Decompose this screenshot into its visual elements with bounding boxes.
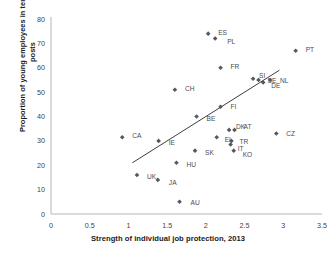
data-point-marker	[218, 65, 223, 70]
data-point-label: UK	[147, 173, 157, 180]
y-tick-label: 50	[37, 88, 45, 97]
data-point-label: KO	[243, 151, 253, 158]
data-point-label: AU	[191, 199, 200, 206]
data-point-marker	[193, 148, 198, 153]
y-tick-label: 30	[37, 136, 45, 145]
data-point-label: CZ	[286, 130, 295, 137]
data-point-marker	[194, 114, 199, 119]
y-tick-label: 80	[37, 15, 45, 24]
data-point-marker	[156, 139, 161, 144]
data-point-label: AT	[244, 123, 252, 130]
data-point-marker	[261, 80, 266, 85]
data-point-marker	[213, 36, 218, 41]
x-tick-label: 2	[204, 221, 208, 230]
x-axis-ticks: 00.511.522.533.5	[49, 221, 327, 230]
y-tick-label: 10	[37, 185, 45, 194]
data-point-marker	[177, 200, 182, 205]
data-point-label: JA	[169, 179, 177, 186]
x-tick-label: 2.5	[240, 221, 250, 230]
x-tick-label: 1	[126, 221, 130, 230]
data-point-marker	[174, 161, 179, 166]
data-point-marker	[214, 135, 219, 140]
x-tick-label: 1.5	[162, 221, 172, 230]
data-point-marker	[120, 135, 125, 140]
x-tick-label: 3.5	[317, 221, 327, 230]
data-point-label: BE	[207, 115, 216, 122]
data-point-label: IE	[169, 139, 176, 146]
y-tick-label: 60	[37, 63, 45, 72]
y-tick-label: 20	[37, 161, 45, 170]
data-point-label: HU	[186, 161, 196, 168]
data-point-label: NL	[280, 77, 289, 84]
x-tick-label: 0	[49, 221, 53, 230]
x-tick-label: 3	[281, 221, 285, 230]
data-point-marker	[173, 87, 178, 92]
data-point-label: PT	[306, 46, 314, 53]
data-point-marker	[231, 148, 236, 153]
data-point-marker	[206, 31, 211, 36]
data-point-marker	[135, 173, 140, 178]
data-point-label: CA	[132, 132, 142, 139]
data-point-marker	[156, 178, 161, 183]
data-point-marker	[227, 128, 232, 133]
scatter-chart: Proportion of young employees in tempora…	[0, 0, 336, 255]
data-points: ESPLPTFRSISEDENLCHFIBEDKATCZCAELIETRITKO…	[120, 29, 314, 206]
y-tick-label: 40	[37, 112, 45, 121]
data-point-label: SK	[205, 149, 214, 156]
data-point-label: FI	[231, 103, 237, 110]
plot-area: 01020304050607080 00.511.522.533.5 ESPLP…	[0, 0, 336, 255]
y-axis-ticks: 01020304050607080	[37, 15, 45, 219]
data-point-marker	[293, 48, 298, 53]
data-point-label: PL	[227, 38, 235, 45]
data-point-label: FR	[231, 63, 240, 70]
data-point-marker	[274, 131, 279, 136]
data-point-marker	[251, 76, 256, 81]
data-point-label: ES	[218, 29, 227, 36]
y-tick-label: 0	[41, 210, 45, 219]
x-tick-label: 0.5	[85, 221, 95, 230]
data-point-label: SI	[259, 72, 265, 79]
y-tick-label: 70	[37, 39, 45, 48]
data-point-label: CH	[185, 85, 195, 92]
